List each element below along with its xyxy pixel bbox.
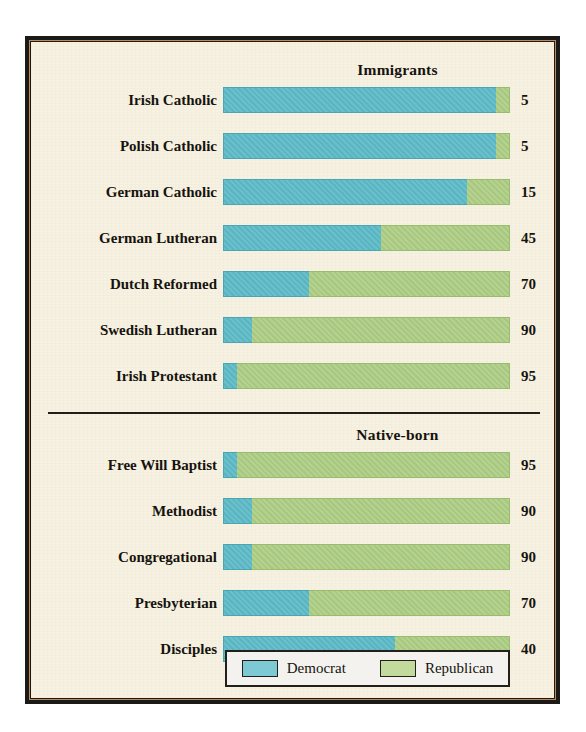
bar-segment-republican — [309, 271, 510, 297]
bar-value-republican: 90 — [521, 322, 554, 339]
bar-segment-republican — [252, 317, 510, 343]
bar-segment-democrat — [223, 133, 496, 159]
stacked-bar — [223, 271, 510, 297]
bar-segment-democrat — [223, 179, 467, 205]
bar-value-republican: 90 — [521, 549, 554, 566]
bar-segment-republican — [381, 225, 510, 251]
bar-row: Dutch Reformed3070 — [31, 270, 554, 298]
legend-label-democrat: Democrat — [287, 660, 346, 677]
bar-segment-democrat — [223, 498, 252, 524]
legend-item-democrat[interactable]: Democrat — [242, 660, 346, 677]
bar-segment-democrat — [223, 452, 237, 478]
bar-value-republican: 15 — [521, 184, 554, 201]
stacked-bar — [223, 363, 510, 389]
bar-row: Polish Catholic955 — [31, 132, 554, 160]
bar-segment-democrat — [223, 87, 496, 113]
bar-value-republican: 70 — [521, 595, 554, 612]
bar-value-republican: 95 — [521, 368, 554, 385]
stacked-bar — [223, 317, 510, 343]
bar-segment-republican — [252, 498, 510, 524]
bar-row: Irish Catholic955 — [31, 86, 554, 114]
bar-segment-democrat — [223, 590, 309, 616]
stacked-bar — [223, 179, 510, 205]
bar-segment-republican — [496, 87, 510, 113]
bar-segment-republican — [496, 133, 510, 159]
section-title-immigrants: Immigrants — [254, 61, 541, 79]
stacked-bar — [223, 133, 510, 159]
stacked-bar — [223, 544, 510, 570]
bar-row: Congregational1090 — [31, 543, 554, 571]
bar-segment-democrat — [223, 225, 381, 251]
legend-swatch-republican-icon — [380, 660, 416, 677]
legend-swatch-democrat-icon — [242, 660, 278, 677]
bar-value-republican: 95 — [521, 457, 554, 474]
bar-segment-democrat — [223, 271, 309, 297]
stacked-bar — [223, 590, 510, 616]
bar-row: Swedish Lutheran1090 — [31, 316, 554, 344]
bar-segment-republican — [237, 363, 510, 389]
legend-label-republican: Republican — [425, 660, 493, 677]
chart-legend: Democrat Republican — [225, 650, 510, 687]
stacked-bar — [223, 225, 510, 251]
bar-segment-democrat — [223, 363, 237, 389]
stacked-bar — [223, 87, 510, 113]
bar-row: Presbyterian3070 — [31, 589, 554, 617]
stacked-bar — [223, 498, 510, 524]
bar-value-republican: 5 — [521, 138, 554, 155]
legend-item-republican[interactable]: Republican — [380, 660, 493, 677]
bar-value-republican: 45 — [521, 230, 554, 247]
bar-row: German Lutheran5545 — [31, 224, 554, 252]
bar-row: Methodist1090 — [31, 497, 554, 525]
bar-segment-republican — [237, 452, 510, 478]
bar-segment-republican — [309, 590, 510, 616]
bar-row: Free Will Baptist595 — [31, 451, 554, 479]
bar-segment-republican — [467, 179, 510, 205]
stacked-bar — [223, 452, 510, 478]
bar-value-republican: 5 — [521, 92, 554, 109]
bar-row: German Catholic8515 — [31, 178, 554, 206]
bar-value-republican: 40 — [521, 641, 554, 658]
section-title-native-born: Native-born — [254, 426, 541, 444]
bar-segment-democrat — [223, 544, 252, 570]
section-divider — [48, 412, 540, 414]
bar-row: Irish Protestant595 — [31, 362, 554, 390]
bar-value-republican: 70 — [521, 276, 554, 293]
chart-surface: Immigrants Irish Catholic955Polish Catho… — [31, 42, 554, 698]
bar-value-republican: 90 — [521, 503, 554, 520]
bar-segment-democrat — [223, 317, 252, 343]
bar-segment-republican — [252, 544, 510, 570]
